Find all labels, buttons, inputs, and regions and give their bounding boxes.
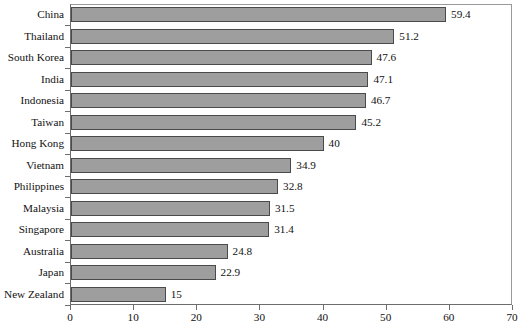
bar-value-label: 34.9 <box>296 158 316 173</box>
bar <box>71 244 228 259</box>
bar-row: Philippines32.8 <box>0 176 531 198</box>
category-label: Philippines <box>0 176 64 198</box>
bar-rows-container: China59.4Thailand51.2South Korea47.6Indi… <box>0 4 531 305</box>
x-axis-tick <box>512 305 513 310</box>
bar-row: South Korea47.6 <box>0 47 531 69</box>
bar <box>71 287 166 302</box>
category-label: New Zealand <box>0 284 64 306</box>
x-axis-tick <box>259 305 260 310</box>
bar-row: Thailand51.2 <box>0 26 531 48</box>
bar-value-label: 47.1 <box>373 72 393 87</box>
bar-row: Australia24.8 <box>0 241 531 263</box>
x-axis-tick-label: 50 <box>380 311 391 323</box>
bar-value-label: 31.5 <box>275 201 295 216</box>
category-label: Australia <box>0 241 64 263</box>
x-axis-tick <box>449 305 450 310</box>
category-label: Japan <box>0 262 64 284</box>
bar <box>71 50 372 65</box>
x-axis-tick <box>196 305 197 310</box>
bar <box>71 72 368 87</box>
bar-row: China59.4 <box>0 4 531 26</box>
bar-row: Vietnam34.9 <box>0 155 531 177</box>
x-axis-tick-label: 10 <box>128 311 139 323</box>
x-axis-tick-label: 40 <box>317 311 328 323</box>
bar <box>71 7 446 22</box>
x-axis-tick <box>386 305 387 310</box>
bar-value-label: 59.4 <box>451 7 471 22</box>
x-axis-tick-label: 70 <box>506 311 517 323</box>
bar-value-label: 46.7 <box>371 93 391 108</box>
bar <box>71 136 324 151</box>
category-label: Hong Kong <box>0 133 64 155</box>
bar <box>71 93 366 108</box>
bar <box>71 29 394 44</box>
x-axis-tick-label: 0 <box>67 311 73 323</box>
category-label: Thailand <box>0 26 64 48</box>
bar-value-label: 45.2 <box>361 115 381 130</box>
category-label: China <box>0 4 64 26</box>
x-axis-tick-label: 30 <box>254 311 265 323</box>
bar-chart: China59.4Thailand51.2South Korea47.6Indi… <box>0 0 531 333</box>
category-label: Malaysia <box>0 198 64 220</box>
bar-value-label: 24.8 <box>233 244 253 259</box>
bar-row: Taiwan45.2 <box>0 112 531 134</box>
x-axis-tick <box>70 305 71 310</box>
bar-value-label: 47.6 <box>377 50 397 65</box>
bar <box>71 179 278 194</box>
x-axis-tick-label: 20 <box>191 311 202 323</box>
bar-value-label: 31.4 <box>274 222 294 237</box>
bar <box>71 201 270 216</box>
bar-row: India47.1 <box>0 69 531 91</box>
bar-row: Singapore31.4 <box>0 219 531 241</box>
bar-value-label: 15 <box>171 287 182 302</box>
bar-row: New Zealand15 <box>0 284 531 306</box>
bar <box>71 265 216 280</box>
bar-value-label: 51.2 <box>399 29 419 44</box>
bar-row: Hong Kong40 <box>0 133 531 155</box>
bar-row: Malaysia31.5 <box>0 198 531 220</box>
x-axis-tick-label: 60 <box>443 311 454 323</box>
x-axis-tick <box>133 305 134 310</box>
bar <box>71 222 269 237</box>
category-label: Taiwan <box>0 112 64 134</box>
category-label: India <box>0 69 64 91</box>
bar-value-label: 40 <box>329 136 340 151</box>
bar-value-label: 32.8 <box>283 179 303 194</box>
category-label: Indonesia <box>0 90 64 112</box>
x-axis-tick <box>323 305 324 310</box>
bar <box>71 115 356 130</box>
bar-row: Indonesia46.7 <box>0 90 531 112</box>
category-label: Vietnam <box>0 155 64 177</box>
bar-row: Japan22.9 <box>0 262 531 284</box>
bar-value-label: 22.9 <box>221 265 241 280</box>
x-axis: 010203040506070 <box>70 305 512 333</box>
category-label: Singapore <box>0 219 64 241</box>
category-label: South Korea <box>0 47 64 69</box>
bar <box>71 158 291 173</box>
